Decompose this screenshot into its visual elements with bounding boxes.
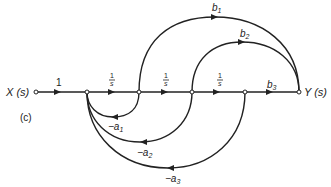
b3-label: b3 — [267, 79, 277, 91]
a1-label: −a1 — [108, 121, 123, 133]
b2-label: b2 — [240, 28, 250, 40]
input-gain-label: 1 — [56, 77, 62, 88]
node-1 — [85, 90, 89, 94]
b2-branch — [192, 42, 299, 92]
node-4 — [243, 90, 247, 94]
output-label: Y (s) — [304, 86, 327, 98]
signal-flow-graph: X (s) Y (s) (c) 1 1 s 1 s 1 s b3 b1 b2 −… — [0, 0, 331, 187]
int3-gain-label: 1 s — [217, 72, 223, 87]
b1-label: b1 — [212, 2, 222, 14]
node-2 — [137, 90, 141, 94]
svg-text:1: 1 — [164, 72, 168, 79]
int2-gain-label: 1 s — [163, 72, 169, 87]
input-node — [34, 90, 38, 94]
svg-text:1: 1 — [110, 72, 114, 79]
a2-label: −a2 — [137, 147, 152, 159]
svg-text:s: s — [218, 80, 222, 87]
svg-text:s: s — [110, 80, 114, 87]
svg-text:s: s — [164, 80, 168, 87]
a3-label: −a3 — [165, 173, 180, 185]
a2-feedback-branch — [87, 92, 192, 142]
panel-label: (c) — [20, 112, 32, 123]
a1-feedback-branch — [87, 92, 139, 117]
node-3 — [190, 90, 194, 94]
int1-gain-label: 1 s — [109, 72, 115, 87]
input-label: X (s) — [5, 86, 30, 98]
svg-text:1: 1 — [218, 72, 222, 79]
output-node — [297, 90, 301, 94]
